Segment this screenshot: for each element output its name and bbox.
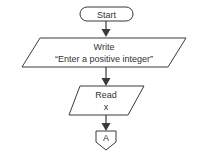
read-node: Read x — [69, 86, 144, 115]
read-label-line2: x — [104, 102, 109, 112]
start-label: Start — [97, 10, 117, 20]
arrow-start-to-write — [102, 21, 111, 37]
arrow-write-to-read — [102, 67, 111, 86]
arrow-read-to-connector — [102, 115, 111, 131]
connector-label: A — [103, 133, 109, 143]
read-label-line1: Read — [95, 90, 117, 100]
off-page-connector: A — [96, 131, 116, 150]
write-node: Write “Enter a positive integer” — [22, 38, 186, 67]
flowchart-canvas: Start Write “Enter a positive integer” R… — [0, 0, 207, 162]
write-label-line1: Write — [94, 42, 115, 52]
write-label-line2: “Enter a positive integer” — [55, 54, 153, 64]
start-node: Start — [80, 7, 133, 21]
